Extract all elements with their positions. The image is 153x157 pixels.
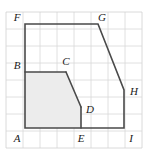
vertex-label-f: F xyxy=(13,11,21,23)
vertex-label-e: E xyxy=(77,132,85,144)
vertex-label-g: G xyxy=(98,11,106,23)
figure-canvas: ABCDEFGHI xyxy=(0,0,153,157)
vertex-label-a: A xyxy=(13,132,21,144)
vertex-label-c: C xyxy=(62,55,70,67)
vertex-label-b: B xyxy=(14,59,21,71)
vertex-label-d: D xyxy=(85,103,94,115)
vertex-label-h: H xyxy=(129,85,139,97)
geometry-figure: ABCDEFGHI xyxy=(0,0,153,157)
